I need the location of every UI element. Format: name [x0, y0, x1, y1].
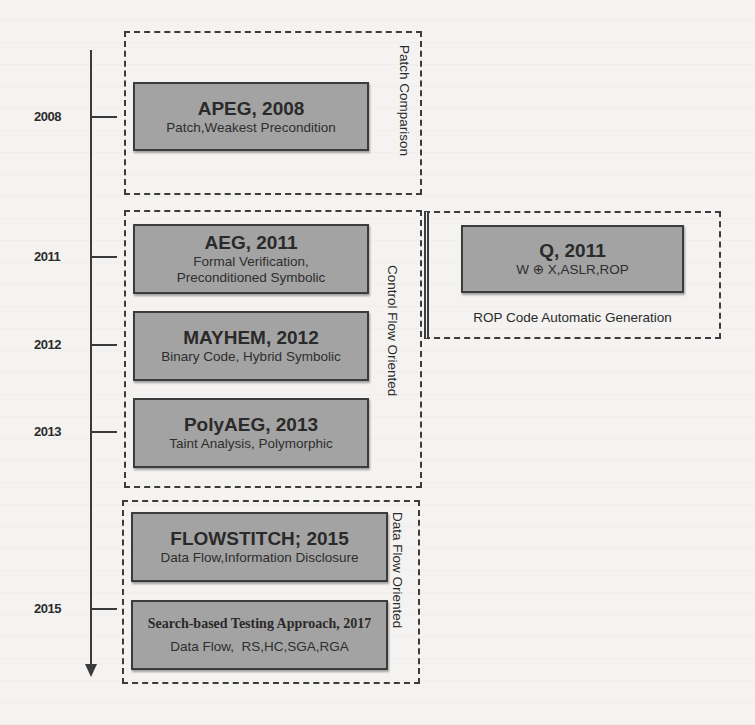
box-subtitle: W ⊕ X,ASLR,ROP — [463, 262, 682, 278]
group-label-rop: ROP Code Automatic Generation — [430, 310, 715, 325]
box-subtitle: Data Flow,Information Disclosure — [133, 550, 386, 566]
group-label-control-flow: Control Flow Oriented — [385, 265, 400, 396]
timeline-tick-2013 — [91, 431, 117, 433]
box-apeg-2008: APEG, 2008 Patch,Weakest Precondition — [133, 82, 369, 151]
box-title: FLOWSTITCH; 2015 — [133, 528, 386, 550]
box-search-based-testing-2017: Search-based Testing Approach, 2017 Data… — [131, 600, 388, 670]
box-title: MAYHEM, 2012 — [135, 327, 367, 349]
box-title: PolyAEG, 2013 — [135, 414, 367, 436]
year-label-2015: 2015 — [34, 601, 82, 616]
box-q-2011: Q, 2011 W ⊕ X,ASLR,ROP — [461, 225, 684, 293]
box-subtitle-line1: Formal Verification, — [135, 254, 367, 270]
timeline-arrow-icon — [85, 664, 97, 677]
box-subtitle: Taint Analysis, Polymorphic — [135, 436, 367, 452]
box-title: Search-based Testing Approach, 2017 — [133, 615, 386, 633]
box-subtitle: Data Flow, RS,HC,SGA,RGA — [133, 639, 386, 655]
box-aeg-2011: AEG, 2011 Formal Verification, Precondit… — [133, 224, 369, 294]
box-title: APEG, 2008 — [135, 98, 367, 120]
timeline-tick-2015 — [91, 608, 117, 610]
box-subtitle: Binary Code, Hybrid Symbolic — [135, 349, 367, 365]
year-label-2011: 2011 — [34, 249, 82, 264]
timeline-axis — [90, 50, 92, 670]
box-polyaeg-2013: PolyAEG, 2013 Taint Analysis, Polymorphi… — [133, 398, 369, 468]
year-label-2008: 2008 — [34, 109, 82, 124]
box-subtitle: Patch,Weakest Precondition — [135, 120, 367, 136]
box-subtitle-line2: Preconditioned Symbolic — [135, 270, 367, 286]
box-flowstitch-2015: FLOWSTITCH; 2015 Data Flow,Information D… — [131, 512, 388, 582]
box-title: Q, 2011 — [463, 240, 682, 262]
group-label-patch-comparison: Patch Comparison — [397, 45, 412, 156]
timeline-tick-2011 — [91, 256, 117, 258]
box-title: AEG, 2011 — [135, 232, 367, 254]
year-label-2012: 2012 — [34, 337, 82, 352]
year-label-2013: 2013 — [34, 424, 82, 439]
box-mayhem-2012: MAYHEM, 2012 Binary Code, Hybrid Symboli… — [133, 311, 369, 381]
timeline-tick-2008 — [91, 116, 117, 118]
group-label-data-flow: Data Flow Oriented — [390, 512, 405, 628]
timeline-tick-2012 — [91, 344, 117, 346]
